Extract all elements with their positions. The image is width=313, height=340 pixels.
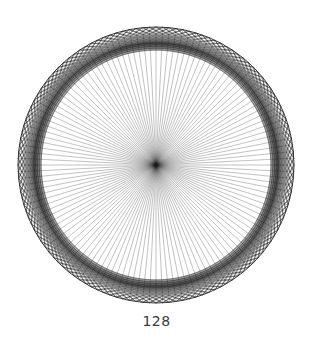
chord-lines: [18, 27, 294, 303]
string-art-diagram: [0, 0, 313, 310]
figure-caption: 128: [0, 313, 313, 329]
